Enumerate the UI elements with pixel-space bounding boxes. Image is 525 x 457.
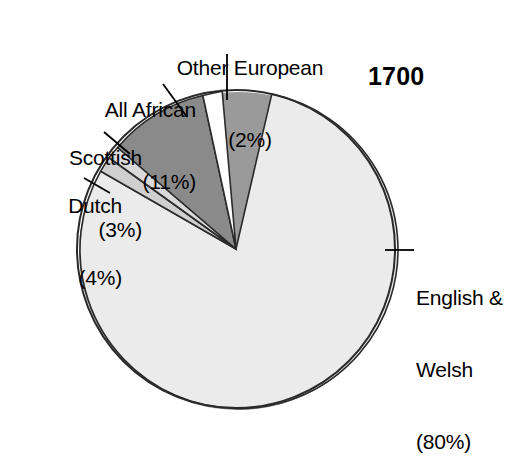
slice-label-english-welsh-value: (80%) <box>416 430 525 454</box>
slice-label-english-welsh-name-1: English & <box>416 286 525 310</box>
slice-label-dutch-name: Dutch <box>4 194 122 218</box>
chart-year-title: 1700 <box>368 62 424 91</box>
slice-label-dutch: Dutch (4%) <box>4 146 122 338</box>
slice-label-english-welsh-name-2: Welsh <box>416 358 525 382</box>
slice-label-english-welsh: English & Welsh (80%) <box>416 238 525 457</box>
slice-label-dutch-value: (4%) <box>4 266 122 290</box>
